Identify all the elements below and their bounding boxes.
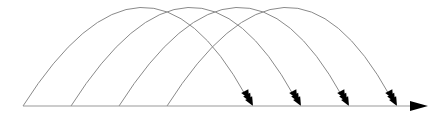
arcs-group	[23, 7, 397, 106]
arc-path	[167, 7, 390, 106]
arc-path	[119, 7, 342, 106]
number-line-arrowhead-icon	[410, 101, 428, 111]
arc-path	[71, 7, 294, 106]
jump-diagram	[0, 0, 448, 117]
jump-arc	[23, 7, 253, 106]
number-line-arcs-figure	[0, 0, 448, 117]
arc-path	[23, 7, 246, 106]
